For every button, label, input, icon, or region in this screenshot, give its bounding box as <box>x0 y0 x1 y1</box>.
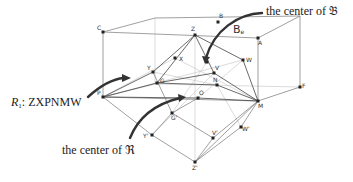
label-G: G <box>160 77 165 84</box>
label-C: C <box>97 24 101 31</box>
label-A: A <box>258 39 263 46</box>
label-Y-prime: Y' <box>142 132 149 139</box>
label-G-prime: G' <box>171 114 178 121</box>
label-X: X <box>179 55 183 62</box>
polyhedron-diagram: C B A Z X W V N Y G P O M F G' Y' V' W' … <box>0 0 353 182</box>
box-label: Be <box>233 23 245 36</box>
label-V-prime: V' <box>212 129 218 136</box>
annotation-R1: R1: ZXPNMW <box>10 95 82 110</box>
label-V: V <box>215 64 220 71</box>
point-C <box>102 31 105 34</box>
point-G <box>156 82 159 85</box>
point-N <box>216 84 219 87</box>
label-O: O <box>199 89 204 96</box>
label-M: M <box>258 102 263 109</box>
point-Y-prime <box>151 134 154 137</box>
label-W-prime: W' <box>242 125 250 132</box>
point-B <box>217 21 220 24</box>
arrow-R1 <box>88 78 124 97</box>
label-Z: Z <box>191 25 195 32</box>
annotation-center-B: the center of 𝔅 <box>266 4 338 18</box>
label-Y: Y <box>146 64 151 71</box>
annotation-center-R: the center of ℜ <box>62 143 135 157</box>
label-B: B <box>219 12 223 19</box>
label-F: F <box>302 82 306 89</box>
point-V <box>213 72 216 75</box>
point-Z <box>194 34 197 37</box>
label-N: N <box>213 76 218 83</box>
point-O <box>197 97 200 100</box>
point-Y <box>152 71 155 74</box>
point-V-prime <box>212 137 215 140</box>
point-W <box>242 59 245 62</box>
label-W: W <box>246 56 252 63</box>
label-Z-prime: Z' <box>192 164 198 171</box>
point-X <box>174 57 177 60</box>
point-P <box>102 96 105 99</box>
